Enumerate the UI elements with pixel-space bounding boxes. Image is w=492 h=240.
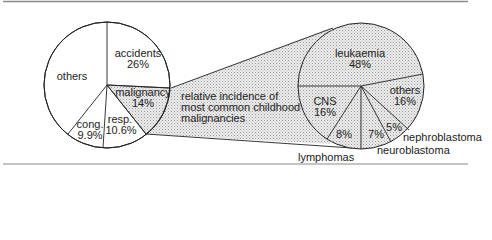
- label-neuroblastoma: neuroblastoma: [377, 144, 450, 156]
- value-nephroblastoma: 5%: [384, 121, 404, 133]
- value-cns: 16%: [310, 106, 340, 118]
- value-resp: 10.6%: [102, 124, 140, 136]
- value-accidents: 26%: [108, 58, 168, 70]
- value-malignancy: 14%: [112, 97, 174, 109]
- value-neuroblastoma: 7%: [366, 128, 386, 140]
- caption-line-3: malignancies: [181, 112, 245, 124]
- label-nephroblastoma: nephroblastoma: [403, 131, 482, 143]
- value-others-right: 16%: [385, 95, 425, 107]
- value-lymphomas: 8%: [333, 128, 355, 140]
- label-lymphomas: lymphomas: [298, 151, 354, 163]
- value-cong: 9.9%: [74, 129, 106, 141]
- label-others-left: others: [42, 70, 102, 82]
- value-leukaemia: 48%: [325, 58, 395, 70]
